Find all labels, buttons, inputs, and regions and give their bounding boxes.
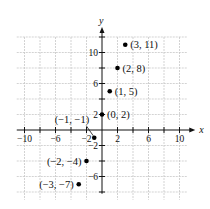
data-point — [123, 42, 128, 47]
data-point — [76, 182, 81, 187]
y-axis-arrow-icon — [100, 27, 105, 33]
data-points: (3, 11)(2, 8)(1, 5)(0, 2)(−1, −1)(−2, −4… — [39, 39, 158, 191]
data-point — [92, 135, 97, 140]
data-point — [84, 159, 89, 164]
y-tick-label: −6 — [88, 172, 98, 182]
point-label: (−1, −1) — [55, 114, 90, 126]
x-tick-label: 2 — [115, 134, 120, 144]
data-point — [115, 66, 120, 71]
y-tick-label: 10 — [89, 48, 99, 58]
point-label: (0, 2) — [107, 109, 130, 121]
y-tick-label: 2 — [93, 110, 98, 120]
data-point — [100, 112, 105, 117]
axes — [17, 27, 196, 194]
point-label: (3, 11) — [130, 39, 158, 51]
x-tick-label: 6 — [146, 134, 151, 144]
x-tick-label: 10 — [175, 134, 185, 144]
point-label: (1, 5) — [115, 86, 138, 98]
y-tick-label: 6 — [93, 79, 98, 89]
point-label: (−3, −7) — [39, 179, 74, 191]
x-tick-label: −10 — [17, 134, 32, 144]
point-label: (−2, −4) — [47, 156, 82, 168]
y-axis-label: y — [98, 15, 104, 26]
point-label: (2, 8) — [123, 63, 146, 75]
data-point — [107, 89, 112, 94]
x-tick-label: −6 — [50, 134, 60, 144]
x-axis-arrow-icon — [189, 128, 195, 133]
x-axis-label: x — [198, 124, 204, 135]
y-tick-label: −2 — [88, 141, 98, 151]
scatter-plot: xy−10−6−226101062−2−6 (3, 11)(2, 8)(1, 5… — [0, 0, 210, 209]
tick-labels: xy−10−6−226101062−2−6 — [17, 15, 204, 182]
